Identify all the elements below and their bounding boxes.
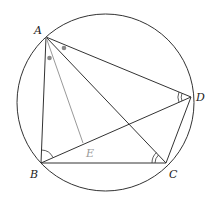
label-E: E — [85, 147, 94, 160]
segment-AE — [46, 37, 83, 143]
diagonal-BD — [41, 97, 191, 163]
segment-AB — [41, 37, 46, 163]
angle-mark-D-outer — [178, 92, 179, 102]
label-C: C — [169, 168, 178, 181]
angle-mark-A-CAD — [62, 46, 67, 51]
angle-mark-C-inner — [155, 155, 159, 163]
angle-mark-C-outer — [152, 153, 157, 164]
diagonal-AC — [46, 37, 166, 163]
geometry-figure: A B C D E — [0, 0, 216, 204]
label-D: D — [195, 91, 205, 104]
angle-mark-D-inner — [181, 93, 182, 101]
angle-mark-B — [42, 150, 54, 158]
angle-mark-A-BAE — [47, 56, 52, 61]
label-A: A — [33, 24, 42, 37]
segment-DA — [46, 37, 191, 97]
label-B: B — [29, 168, 38, 181]
